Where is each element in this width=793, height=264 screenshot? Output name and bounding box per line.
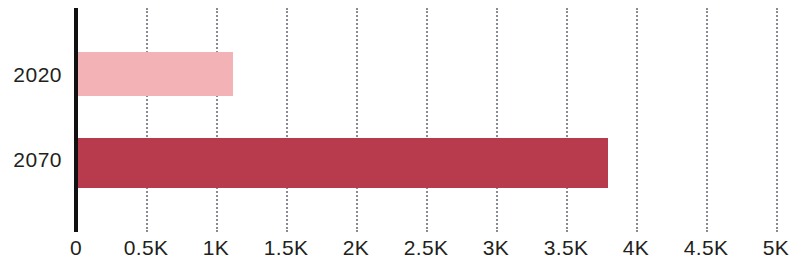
y-axis-labels: 2020 2070 [0, 8, 68, 232]
plot-area [76, 8, 776, 232]
gridline-2000 [356, 8, 358, 232]
bar-2020 [76, 52, 233, 96]
gridline-1000 [216, 8, 218, 232]
x-axis-tick-3.5K: 3.5K [544, 236, 588, 259]
x-axis-tick-1K: 1K [203, 236, 229, 259]
x-axis-tick-0: 0 [70, 236, 82, 259]
bar-2070 [76, 138, 608, 188]
x-axis-tick-2.5K: 2.5K [404, 236, 448, 259]
gridline-3000 [496, 8, 498, 232]
x-axis-tick-2K: 2K [343, 236, 369, 259]
gridline-2500 [426, 8, 428, 232]
gridline-5000 [776, 8, 778, 232]
gridline-4500 [706, 8, 708, 232]
gridline-500 [146, 8, 148, 232]
gridline-1500 [286, 8, 288, 232]
y-axis-label-2070: 2070 [13, 149, 62, 170]
x-axis-tick-0.5K: 0.5K [124, 236, 168, 259]
y-axis-label-2020: 2020 [13, 64, 62, 85]
gridline-3500 [566, 8, 568, 232]
x-axis-labels: 00.5K1K1.5K2K2.5K3K3.5K4K4.5K5K [76, 236, 776, 264]
y-axis-line [74, 8, 78, 232]
bar-chart: 2020 2070 00.5K1K1.5K2K2.5K3K3.5K4K4.5K5… [0, 0, 793, 264]
x-axis-tick-4.5K: 4.5K [684, 236, 728, 259]
x-axis-tick-5K: 5K [763, 236, 789, 259]
gridline-4000 [636, 8, 638, 232]
x-axis-tick-1.5K: 1.5K [264, 236, 308, 259]
x-axis-tick-3K: 3K [483, 236, 509, 259]
x-axis-tick-4K: 4K [623, 236, 649, 259]
